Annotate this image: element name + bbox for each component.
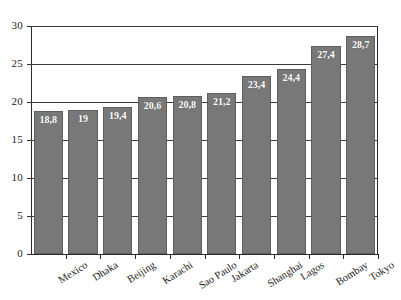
x-category-label: Dhaka [91, 260, 120, 283]
bar: 19 [68, 110, 97, 254]
bar-value-label: 20,8 [174, 99, 201, 110]
bar-value-label: 19 [69, 113, 96, 124]
bar-value-label: 27,4 [312, 49, 339, 60]
bar-value-label: 23,4 [243, 79, 270, 90]
bar: 23,4 [242, 76, 271, 254]
bars-group: 18,81919,420,620,821,223,424,427,428,7 [31, 26, 378, 254]
bar-value-label: 18,8 [35, 114, 62, 125]
bar: 19,4 [103, 107, 132, 254]
bar-value-label: 20,6 [139, 100, 166, 111]
bar: 24,4 [277, 69, 306, 254]
bar: 27,4 [311, 46, 340, 254]
x-category-label: Mexico [57, 260, 90, 286]
x-axis-category-labels: MexicoDhakaBeijingKarachiSao PauloJakart… [31, 254, 378, 300]
bar: 20,8 [173, 96, 202, 254]
bar-value-label: 21,2 [208, 96, 235, 107]
bar: 20,6 [138, 97, 167, 254]
y-tick-label: 15 [0, 134, 23, 145]
x-tick-mark [378, 255, 379, 259]
y-tick-label: 25 [0, 58, 23, 69]
bar: 18,8 [34, 111, 63, 254]
y-tick-label: 30 [0, 20, 23, 31]
x-category-label: Lagos [299, 260, 326, 283]
y-tick-label: 20 [0, 96, 23, 107]
x-category-label: Karachi [161, 260, 195, 287]
y-tick-label: 5 [0, 210, 23, 221]
y-tick-label: 0 [0, 248, 23, 259]
x-category-label: Bombay [335, 260, 371, 288]
bar-value-label: 24,4 [278, 72, 305, 83]
x-category-label: Beijing [126, 260, 158, 285]
bar: 21,2 [207, 93, 236, 254]
y-tick-label: 10 [0, 172, 23, 183]
bar-value-label: 28,7 [347, 39, 374, 50]
bar-value-label: 19,4 [104, 110, 131, 121]
bar-chart: 051015202530 18,81919,420,620,821,223,42… [0, 0, 401, 300]
x-category-label: Tokyo [368, 260, 396, 283]
bar: 28,7 [346, 36, 375, 254]
